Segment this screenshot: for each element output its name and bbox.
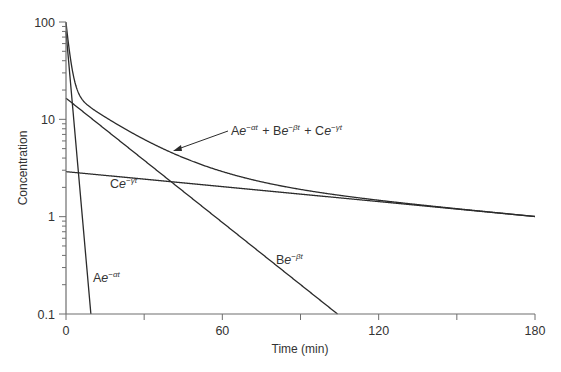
y-tick-label: 0.1 (38, 308, 55, 322)
b-term-label: Be−βt (276, 252, 304, 267)
x-tick-label: 60 (215, 324, 229, 338)
annotation-sum: Ae−αt + Be−βt + Ce−γt (173, 123, 343, 151)
y-tick-label: 10 (41, 113, 55, 127)
y-tick-label: 100 (34, 16, 55, 30)
sum-label: Ae−αt + Be−βt + Ce−γt (231, 123, 343, 138)
curves-group (66, 22, 535, 314)
arrow-head-icon (173, 145, 182, 151)
y-tick-label: 1 (48, 210, 55, 224)
pharmacokinetic-chart: 0.1110100 060120180 Time (min) Concentra… (0, 0, 561, 372)
x-axis-title: Time (min) (272, 342, 329, 356)
y-ticks: 0.1110100 (34, 16, 66, 322)
x-ticks: 060120180 (63, 314, 546, 338)
a-term-label: Ae−αt (93, 270, 121, 285)
y-axis-title: Concentration (16, 131, 30, 206)
annotation-arrow (178, 131, 228, 149)
x-tick-label: 120 (368, 324, 389, 338)
x-tick-label: 180 (525, 324, 546, 338)
c-term-label: Ce−γt (110, 176, 138, 191)
x-tick-label: 0 (63, 324, 70, 338)
